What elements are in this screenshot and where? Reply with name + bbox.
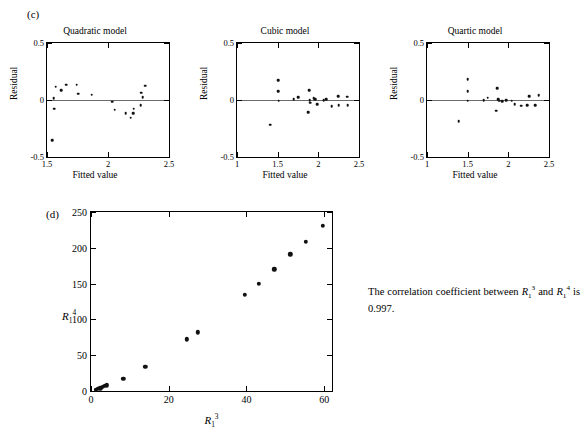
data-point [132, 112, 135, 115]
x-tick-label: 2 [106, 159, 110, 169]
data-point [184, 337, 188, 341]
data-point [498, 99, 501, 102]
x-tick-mark [278, 152, 279, 157]
x-tick-label: 1.5 [462, 159, 473, 169]
data-point [346, 104, 349, 107]
data-point [196, 330, 200, 334]
data-point [320, 223, 324, 227]
x-tick-label: 2 [506, 159, 510, 169]
y-tick-mark [327, 391, 332, 392]
data-point [143, 364, 147, 368]
zero-reference-line [427, 100, 549, 101]
data-point [537, 94, 540, 97]
y-tick-mark [91, 248, 96, 249]
x-axis-superscript: 3 [215, 412, 219, 421]
y-tick-mark [354, 43, 359, 44]
data-point [139, 104, 142, 107]
data-point [292, 98, 295, 101]
y-tick-mark [91, 284, 96, 285]
y-tick-mark [354, 157, 359, 158]
y-axis-title: Residual [389, 67, 399, 100]
y-tick-mark [427, 100, 432, 101]
y-tick-label: 0 [230, 95, 234, 105]
data-point [325, 98, 328, 101]
x-axis-subscript: 1 [211, 420, 215, 429]
y-axis-title: Residual [9, 67, 19, 100]
data-point [297, 96, 300, 99]
y-tick-mark [91, 355, 96, 356]
data-point [528, 95, 531, 98]
x-tick-mark [359, 43, 360, 48]
y-tick-mark [91, 319, 96, 320]
x-tick-label: 60 [319, 394, 329, 405]
x-tick-mark [108, 152, 109, 157]
y-tick-label: 0 [40, 95, 44, 105]
x-tick-label: 2.5 [354, 159, 365, 169]
y-tick-mark [47, 157, 52, 158]
residual-plot-cubic: Cubic model Residual 11.522.50.50-0.5 Fi… [190, 0, 380, 190]
y-tick-label: 150 [72, 278, 87, 289]
data-point [277, 79, 280, 82]
data-point [466, 90, 469, 93]
data-point [513, 103, 516, 106]
data-point [53, 107, 56, 110]
x-tick-mark [318, 43, 319, 48]
data-point [141, 96, 144, 99]
x-tick-mark [508, 152, 509, 157]
x-tick-mark [508, 43, 509, 48]
y-tick-mark [237, 43, 242, 44]
correlation-scatter-plot: R14 0204060050100150200250 R13 [0, 196, 360, 437]
x-axis-title: Fitted value [0, 170, 190, 180]
x-axis-title: Fitted value [380, 170, 570, 180]
data-point [121, 377, 125, 381]
data-point [124, 112, 127, 115]
y-tick-mark [327, 212, 332, 213]
data-point [272, 267, 276, 271]
x-tick-mark [468, 152, 469, 157]
data-point [496, 87, 499, 90]
data-point [144, 84, 147, 87]
plot-area: 1.522.50.50-0.5 [46, 42, 170, 158]
data-point [303, 240, 307, 244]
y-tick-label: 100 [72, 314, 87, 325]
y-tick-mark [544, 157, 549, 158]
plot-area: 0204060050100150200250 [90, 211, 333, 392]
y-tick-label: 200 [72, 242, 87, 253]
data-point [487, 96, 490, 99]
y-tick-mark [91, 212, 96, 213]
y-tick-label: 0.5 [413, 38, 424, 48]
y-tick-mark [327, 284, 332, 285]
y-tick-mark [544, 100, 549, 101]
x-tick-mark [246, 386, 247, 391]
y-tick-label: -0.5 [411, 152, 424, 162]
data-point [337, 95, 340, 98]
data-point [346, 95, 349, 98]
data-point [277, 99, 280, 102]
data-point [457, 120, 460, 123]
data-point [129, 116, 132, 119]
data-point [505, 99, 508, 102]
y-axis-title: Residual [199, 67, 209, 100]
data-point [501, 100, 504, 103]
x-tick-label: 1.5 [272, 159, 283, 169]
y-tick-label: -0.5 [31, 152, 44, 162]
plot-title: Cubic model [190, 26, 380, 36]
x-axis-title: Fitted value [190, 170, 380, 180]
x-tick-mark [169, 43, 170, 48]
data-point [54, 86, 57, 89]
data-point [51, 139, 54, 142]
y-tick-label: 50 [77, 350, 87, 361]
data-point [242, 293, 246, 297]
y-tick-label: 0 [82, 386, 87, 397]
y-tick-label: 250 [72, 207, 87, 218]
x-tick-label: 2.5 [544, 159, 555, 169]
y-tick-mark [327, 248, 332, 249]
caption-var1-subscript: 1 [528, 292, 532, 300]
x-tick-mark [359, 152, 360, 157]
x-tick-label: 2 [316, 159, 320, 169]
data-point [467, 99, 470, 102]
x-tick-mark [246, 212, 247, 217]
plot-title: Quartic model [380, 26, 570, 36]
x-tick-mark [324, 212, 325, 217]
residual-plot-quartic: Quartic model Residual 11.522.50.50-0.5 … [380, 0, 570, 190]
